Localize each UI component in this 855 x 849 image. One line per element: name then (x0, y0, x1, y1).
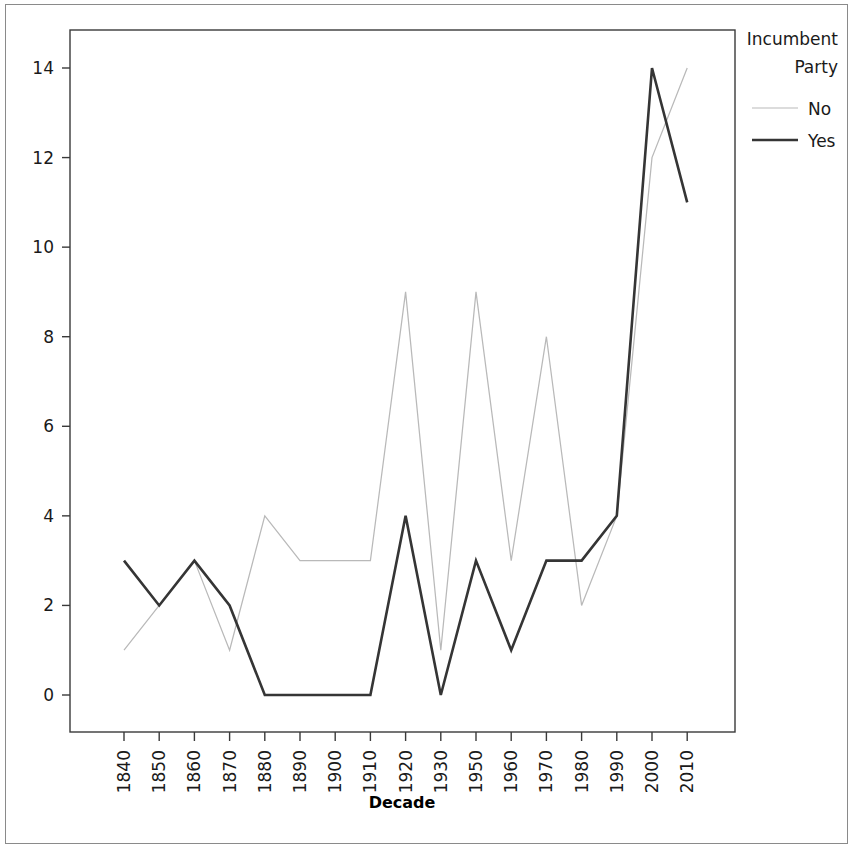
x-tick-label: 1970 (536, 750, 556, 793)
x-tick-label: 1960 (501, 750, 521, 793)
y-tick-label: 14 (32, 58, 54, 78)
x-tick-label: 1840 (114, 750, 134, 793)
y-tick-label: 2 (43, 595, 54, 615)
line-chart: 02468101214 1840185018601870188018901900… (0, 0, 855, 849)
x-tick-label: 1980 (572, 750, 592, 793)
y-tick-label: 12 (32, 148, 54, 168)
chart-figure: 02468101214 1840185018601870188018901900… (0, 0, 855, 849)
x-tick-label: 1930 (431, 750, 451, 793)
x-axis-ticks: 1840185018601870188018901900191019201930… (114, 732, 697, 793)
y-tick-label: 10 (32, 237, 54, 257)
y-tick-label: 4 (43, 506, 54, 526)
y-tick-label: 0 (43, 685, 54, 705)
x-tick-label: 2010 (677, 750, 697, 793)
legend-title-line2: Party (794, 57, 838, 77)
x-tick-label: 1850 (149, 750, 169, 793)
legend: IncumbentPartyNoYes (747, 29, 838, 151)
legend-label-yes[interactable]: Yes (807, 131, 836, 151)
x-axis-title: Decade (369, 793, 436, 812)
x-tick-label: 1990 (607, 750, 627, 793)
plot-panel-frame (70, 30, 735, 732)
x-tick-label: 1910 (360, 750, 380, 793)
y-axis-ticks: 02468101214 (32, 58, 70, 705)
x-tick-label: 2000 (642, 750, 662, 793)
x-tick-label: 1920 (396, 750, 416, 793)
legend-label-no[interactable]: No (808, 99, 831, 119)
legend-title-line1: Incumbent (747, 29, 838, 49)
x-tick-label: 1890 (290, 750, 310, 793)
x-tick-label: 1860 (184, 750, 204, 793)
x-tick-label: 1870 (220, 750, 240, 793)
x-tick-label: 1950 (466, 750, 486, 793)
x-tick-label: 1880 (255, 750, 275, 793)
y-tick-label: 8 (43, 327, 54, 347)
x-tick-label: 1900 (325, 750, 345, 793)
y-tick-label: 6 (43, 416, 54, 436)
